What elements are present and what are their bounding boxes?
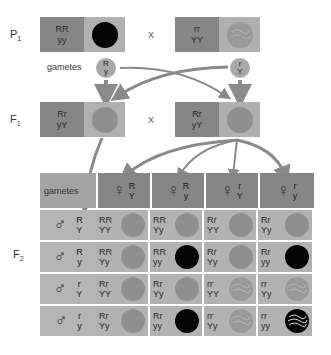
offspring-cell: Rryy: [150, 306, 202, 336]
offspring-cell: RrYy: [150, 274, 202, 304]
p1-parent-left: RRyy: [40, 17, 125, 52]
punnett-square: gametes ♀RY ♀Ry ♀rY ♀ry ♂RY RRYY RRYy Rr…: [40, 173, 314, 338]
offspring-cell: Rryy: [258, 242, 312, 272]
punnett-row: ♂RY RRYY RRYy RrYY RrYy: [40, 210, 314, 240]
pea-wrinkled-yellow-icon: [285, 277, 309, 301]
genotype: rrYY: [175, 17, 219, 52]
offspring-cell: RRYy: [150, 210, 202, 240]
genotype: RryY: [175, 102, 219, 137]
gamete-Ry: Ry: [96, 58, 116, 78]
punnett-row: ♂Ry RRYy RRyy RrYy Rryy: [40, 242, 314, 272]
offspring-cell: RRYy: [96, 242, 148, 272]
f1-label: F1: [10, 113, 21, 127]
pea-round-yellow-icon: [227, 107, 253, 133]
male-icon: ♂: [53, 247, 66, 267]
pea-wrinkled-yellow-icon: [229, 309, 253, 333]
pea-round-yellow-icon: [285, 213, 309, 237]
offspring-cell: RrYy: [258, 210, 312, 240]
pea-wrinkled-yellow-icon: [229, 277, 253, 301]
female-gamete-Ry: ♀Ry: [152, 173, 204, 208]
female-gamete-rY: ♀rY: [206, 173, 258, 208]
p1-parent-right: rrYY: [175, 17, 260, 52]
offspring-cell: rrYy: [258, 274, 312, 304]
punnett-row: ♂ry RrYy Rryy rrYy rryy: [40, 306, 314, 336]
pea-round-yellow-icon: [121, 277, 145, 301]
punnett-row: ♂rY RrYY RrYy rrYY rrYy: [40, 274, 314, 304]
f1-left: RryY: [40, 102, 125, 137]
offspring-cell: rrYY: [204, 274, 256, 304]
f2-label: F2: [13, 248, 24, 262]
pea-round-yellow-icon: [175, 277, 199, 301]
pea-round-green-icon: [92, 22, 118, 48]
male-gamete-rY: ♂rY: [40, 274, 96, 304]
pea-round-yellow-icon: [121, 245, 145, 269]
pea-wrinkled-green-icon: [285, 309, 309, 333]
offspring-cell: rryy: [258, 306, 312, 336]
pea-wrinkled-yellow-icon: [227, 22, 253, 48]
female-icon: ♀: [221, 181, 234, 201]
pea-round-yellow-icon: [229, 245, 253, 269]
gamete-rY: rY: [230, 58, 250, 78]
offspring-cell: RrYy: [204, 242, 256, 272]
offspring-cell: RRyy: [150, 242, 202, 272]
pea-round-yellow-icon: [121, 309, 145, 333]
offspring-cell: RRYY: [96, 210, 148, 240]
pea-round-yellow-icon: [229, 213, 253, 237]
male-icon: ♂: [53, 215, 66, 235]
female-icon: ♀: [113, 181, 126, 201]
offspring-cell: RrYy: [96, 306, 148, 336]
offspring-cell: rrYy: [204, 306, 256, 336]
cross-symbol: X: [148, 115, 154, 125]
pea-round-yellow-icon: [92, 107, 118, 133]
male-gamete-ry: ♂ry: [40, 306, 96, 336]
female-icon: ♀: [167, 181, 180, 201]
pea-round-green-icon: [175, 309, 199, 333]
genotype: RryY: [40, 102, 84, 137]
header-row: gametes ♀RY ♀Ry ♀rY ♀ry: [40, 173, 314, 208]
female-gamete-RY: ♀RY: [98, 173, 150, 208]
offspring-cell: RrYY: [204, 210, 256, 240]
male-gamete-Ry: ♂Ry: [40, 242, 96, 272]
pea-round-yellow-icon: [121, 213, 145, 237]
cross-symbol: X: [148, 30, 154, 40]
pea-round-green-icon: [175, 245, 199, 269]
female-gamete-ry: ♀ry: [260, 173, 314, 208]
female-icon: ♀: [277, 181, 290, 201]
p1-label: P1: [10, 28, 21, 42]
male-gamete-RY: ♂RY: [40, 210, 96, 240]
genotype: RRyy: [40, 17, 84, 52]
pea-round-green-icon: [285, 245, 309, 269]
gametes-header: gametes: [40, 173, 96, 208]
offspring-cell: RrYY: [96, 274, 148, 304]
male-icon: ♂: [54, 311, 67, 331]
male-icon: ♂: [54, 279, 67, 299]
gametes-label: gametes: [47, 62, 82, 72]
pea-round-yellow-icon: [175, 213, 199, 237]
f1-right: RryY: [175, 102, 260, 137]
